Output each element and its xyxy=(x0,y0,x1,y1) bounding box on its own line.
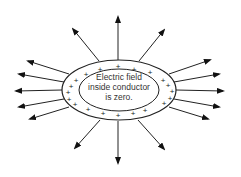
field-arrow-left-2 xyxy=(19,74,64,82)
label-line-3: is zero. xyxy=(80,92,158,102)
field-arrow-left-5 xyxy=(30,107,69,119)
label-line-2: inside conductor xyxy=(80,82,158,92)
field-arrow-left-3 xyxy=(16,90,62,91)
inside-field-label: Electric field inside conductor is zero. xyxy=(80,72,158,102)
svg-text:+: + xyxy=(162,99,167,108)
svg-text:+: + xyxy=(116,111,121,120)
field-arrow-top-left xyxy=(73,29,99,61)
field-arrow-left-1 xyxy=(28,61,69,74)
svg-text:+: + xyxy=(101,109,106,118)
field-arrow-left-4 xyxy=(19,99,64,107)
svg-text:+: + xyxy=(67,95,72,104)
svg-text:+: + xyxy=(86,105,91,114)
field-arrow-right-5 xyxy=(169,107,208,119)
svg-text:+: + xyxy=(168,94,173,103)
field-arrow-top-right xyxy=(139,30,164,61)
svg-text:+: + xyxy=(131,109,136,118)
svg-text:+: + xyxy=(73,100,78,109)
label-line-1: Electric field xyxy=(80,72,158,82)
field-arrow-bottom-right xyxy=(138,120,164,149)
svg-text:+: + xyxy=(116,62,121,71)
svg-text:+: + xyxy=(143,106,148,115)
field-arrow-right-1 xyxy=(169,60,210,74)
field-arrow-right-4 xyxy=(174,99,219,107)
svg-text:+: + xyxy=(74,76,79,85)
field-arrow-bottom-left xyxy=(75,120,100,148)
field-arrow-right-3 xyxy=(176,90,223,91)
field-arrow-right-2 xyxy=(174,74,219,82)
